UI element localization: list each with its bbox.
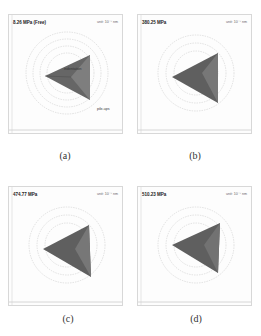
scale-label: unit: 10⁻⁷ nm bbox=[97, 20, 118, 24]
pressure-label: 474.77 MPa bbox=[13, 192, 37, 197]
pressure-label: 380.25 MPa bbox=[142, 20, 166, 25]
panel-c: 474.77 MPa unit: 10⁻⁷ nm bbox=[8, 186, 123, 306]
indentation-annotation: indentation bbox=[64, 67, 82, 71]
pressure-label: 510.23 MPa bbox=[142, 192, 166, 197]
indentation-contour-map bbox=[9, 15, 123, 134]
scale-label: unit: 10⁻⁷ nm bbox=[226, 20, 247, 24]
pressure-label: 8.26 MPa (Free) bbox=[13, 20, 46, 25]
caption-a: (a) bbox=[45, 150, 85, 161]
scale-label: unit: 10⁻⁷ nm bbox=[97, 192, 118, 196]
panel-a: 8.26 MPa (Free) unit: 10⁻⁷ nm indentatio… bbox=[8, 14, 123, 134]
indentation-contour-map bbox=[138, 187, 252, 306]
caption-d: (d) bbox=[176, 313, 216, 324]
indentation-contour-map bbox=[9, 187, 123, 306]
caption-c: (c) bbox=[48, 313, 88, 324]
indentation-contour-map bbox=[138, 15, 252, 134]
panel-b: 380.25 MPa unit: 10⁻⁷ nm bbox=[137, 14, 252, 134]
pile-ups-annotation: pile-ups bbox=[97, 107, 110, 111]
scale-label: unit: 10⁻⁷ nm bbox=[226, 192, 247, 196]
panel-d: 510.23 MPa unit: 10⁻⁷ nm bbox=[137, 186, 252, 306]
caption-b: (b) bbox=[175, 150, 215, 161]
